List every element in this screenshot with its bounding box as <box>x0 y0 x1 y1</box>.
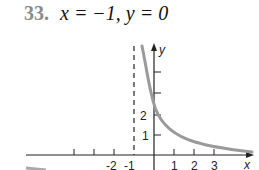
y-tick-label-2: 2 <box>140 109 147 123</box>
x-tick-label-neg2: -2 <box>106 159 117 170</box>
y-axis-label: y <box>158 43 166 57</box>
graph: y x 1 2 -2 -1 1 2 3 <box>0 0 259 170</box>
x-tick-label-3: 3 <box>211 159 218 170</box>
x-tick-label-neg1: -1 <box>124 159 135 170</box>
curve <box>142 46 252 152</box>
x-axis-label: x <box>243 158 251 170</box>
x-ticks <box>74 149 214 155</box>
curve-left-branch <box>26 168 46 170</box>
y-tick-label-1: 1 <box>142 129 149 143</box>
x-tick-label-1: 1 <box>171 159 178 170</box>
y-axis-arrow-icon <box>151 43 157 51</box>
x-tick-label-2: 2 <box>191 159 198 170</box>
